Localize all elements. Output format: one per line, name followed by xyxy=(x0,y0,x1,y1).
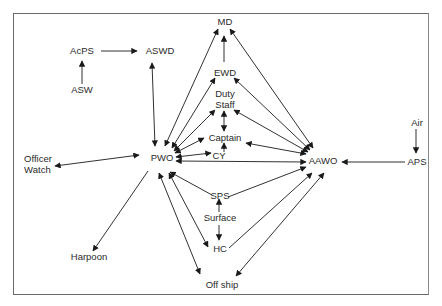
node-duty-staff-line1: Duty xyxy=(215,89,235,100)
node-officer-watch-line2: Watch xyxy=(24,164,52,175)
node-officer-watch-line1: Officer xyxy=(24,154,52,165)
node-surface: Surface xyxy=(204,213,237,224)
node-duty-staff: Duty Staff xyxy=(215,89,235,110)
edge-pwo-cy xyxy=(176,153,211,157)
edge-md-aawo xyxy=(230,29,313,148)
edge-officerwatch-pwo xyxy=(55,155,139,166)
node-aawo: AAWO xyxy=(309,156,338,167)
edge-captain-aawo xyxy=(246,143,306,154)
node-sps: SPS xyxy=(210,191,229,202)
node-cy: CY xyxy=(212,151,225,162)
node-air: Air xyxy=(411,118,423,129)
edge-sps-pwo xyxy=(170,172,212,195)
node-officer-watch: Officer Watch xyxy=(24,154,52,175)
node-md: MD xyxy=(218,17,233,28)
node-duty-staff-line2: Staff xyxy=(215,99,235,110)
node-off-ship: Off ship xyxy=(206,280,239,291)
node-captain: Captain xyxy=(209,133,242,144)
edge-dutystaff-pwo xyxy=(174,110,215,151)
edge-pwo-aawo xyxy=(176,161,306,162)
node-ewd: EWD xyxy=(214,68,236,79)
node-acps: AcPS xyxy=(70,46,94,57)
node-asw: ASW xyxy=(71,85,93,96)
node-aswd: ASWD xyxy=(146,46,175,57)
edge-pwo-harpoon xyxy=(93,171,148,251)
edge-pwo-offship xyxy=(159,173,200,274)
edge-sps-aawo xyxy=(228,167,306,197)
edge-dutystaff-aawo xyxy=(234,110,308,152)
node-aps: APS xyxy=(407,157,426,168)
node-harpoon: Harpoon xyxy=(71,252,107,263)
node-pwo: PWO xyxy=(151,153,174,164)
edge-aswd-pwo xyxy=(152,63,155,146)
edge-pwo-hc xyxy=(169,173,208,247)
node-hc: HC xyxy=(213,244,227,255)
edge-hc-aawo xyxy=(229,173,312,248)
